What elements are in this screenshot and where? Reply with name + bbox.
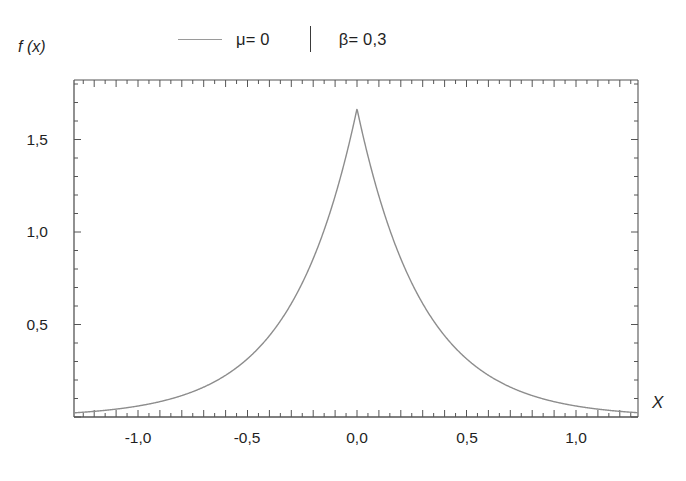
plot-frame (74, 80, 638, 417)
chart-figure: μ= 0 β= 0,3 f (x) X 1,5 1,0 0,5 -1,0 -0,… (0, 0, 686, 481)
plot-area (0, 0, 686, 481)
density-curve (74, 109, 637, 412)
axis-ticks (74, 80, 638, 417)
